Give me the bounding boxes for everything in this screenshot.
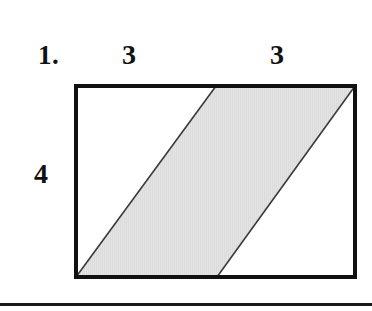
left-side-length-label: 4 xyxy=(34,160,48,188)
top-left-segment-label: 3 xyxy=(122,41,136,69)
worksheet-figure-page: 1. 3 3 4 xyxy=(0,0,372,311)
bottom-divider-rule xyxy=(0,303,372,306)
top-right-segment-label: 3 xyxy=(270,41,284,69)
problem-number-label: 1. xyxy=(38,42,59,69)
rectangle-with-shaded-parallelogram xyxy=(74,84,357,279)
figure-svg xyxy=(74,84,357,279)
